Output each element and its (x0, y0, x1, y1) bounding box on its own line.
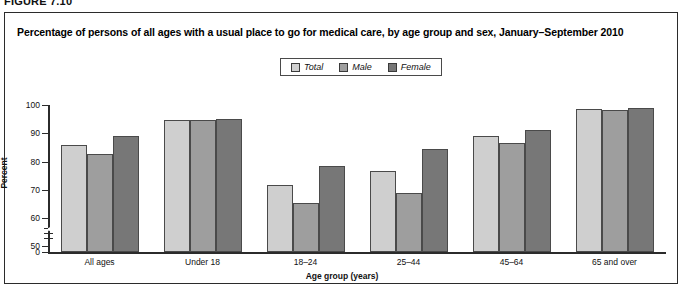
legend-swatch-male (339, 63, 348, 72)
bar-group (267, 105, 345, 252)
bar-male[interactable] (190, 120, 216, 252)
bar-total[interactable] (473, 136, 499, 252)
y-axis-tick (42, 190, 48, 191)
bar-total[interactable] (61, 145, 87, 252)
x-axis-tick-label: 25–44 (397, 257, 421, 267)
legend-label-total: Total (304, 62, 323, 72)
y-axis-tick-label: 70 (6, 185, 40, 195)
x-axis-tick-label: 65 and over (592, 257, 637, 267)
y-axis-tick-label: 60 (6, 213, 40, 223)
bar-female[interactable] (525, 130, 551, 252)
bar-total[interactable] (164, 120, 190, 252)
bar-group (473, 105, 551, 252)
y-axis-tick (42, 162, 48, 163)
legend-item-female: Female (388, 62, 431, 72)
bar-female[interactable] (113, 136, 139, 252)
y-axis-tick-label: 90 (6, 128, 40, 138)
bar-total[interactable] (576, 109, 602, 252)
plot-area (48, 105, 662, 252)
x-axis-tick-label: 45–64 (500, 257, 524, 267)
y-axis-tick-label: 50 (6, 241, 40, 251)
x-axis-tick-label: Under 18 (185, 257, 220, 267)
x-axis-tick-label: All ages (84, 257, 114, 267)
legend-item-male: Male (339, 62, 372, 72)
bar-total[interactable] (267, 185, 293, 252)
bar-group (61, 105, 139, 252)
legend-swatch-total (291, 63, 300, 72)
legend-label-male: Male (352, 62, 372, 72)
chart-legend: Total Male Female (280, 58, 442, 76)
y-axis-tick (42, 246, 48, 247)
x-axis-title: Age group (years) (0, 271, 684, 281)
bar-male[interactable] (293, 203, 319, 252)
y-axis-tick-label: 80 (6, 157, 40, 167)
bar-female[interactable] (628, 108, 654, 252)
y-axis-tick (42, 252, 48, 253)
legend-swatch-female (388, 63, 397, 72)
y-axis-title: Percent (0, 157, 9, 188)
bar-male[interactable] (396, 193, 422, 252)
bar-total[interactable] (370, 171, 396, 252)
bar-male[interactable] (499, 143, 525, 252)
bar-group (576, 105, 654, 252)
bar-male[interactable] (87, 154, 113, 252)
y-axis-tick (42, 218, 48, 219)
bar-female[interactable] (216, 119, 242, 252)
x-axis-line (48, 252, 666, 254)
bar-female[interactable] (422, 149, 448, 252)
bar-female[interactable] (319, 166, 345, 252)
y-axis-tick-label: 100 (6, 100, 40, 110)
legend-item-total: Total (291, 62, 323, 72)
bar-group (370, 105, 448, 252)
bar-male[interactable] (602, 110, 628, 252)
y-axis-tick (42, 105, 48, 106)
x-axis-tick-label: 18–24 (294, 257, 318, 267)
y-axis-tick-labels: 05060708090100 (0, 0, 40, 288)
chart-title: Percentage of persons of all ages with a… (17, 26, 623, 38)
bar-group (164, 105, 242, 252)
y-axis-tick (42, 133, 48, 134)
legend-label-female: Female (401, 62, 431, 72)
